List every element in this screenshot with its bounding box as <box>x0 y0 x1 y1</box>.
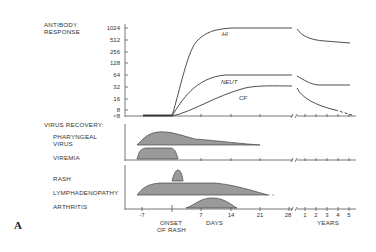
hi-curve-late <box>297 29 350 43</box>
chart-graphics <box>0 0 376 252</box>
lymphadenopathy-area <box>137 183 268 195</box>
axis-break-marks <box>291 114 297 211</box>
cf-curve-late <box>297 88 335 110</box>
cf-curve-dashed <box>335 110 352 115</box>
pharyngeal-virus-area <box>137 132 260 145</box>
neut-curve-late <box>297 76 350 85</box>
viremia-area <box>137 148 178 159</box>
hi-curve <box>172 28 292 116</box>
x-axis-ticks <box>142 114 349 212</box>
arthritis-area <box>186 198 237 208</box>
cf-curve <box>172 86 292 116</box>
rash-area <box>172 170 183 181</box>
y-axis-ticks <box>125 28 128 110</box>
